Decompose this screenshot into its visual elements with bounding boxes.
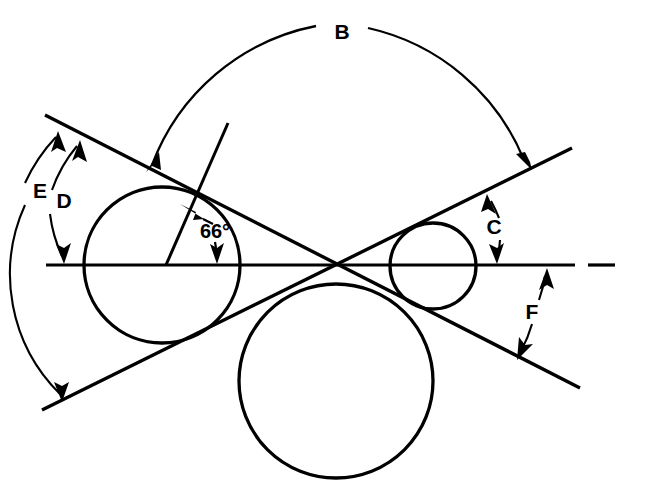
arc-c-label: C: [486, 215, 501, 238]
arc-d-bottom-arrowhead: [56, 243, 71, 264]
arc-d-upper-segment: [52, 146, 77, 190]
angle-leader-arrowhead-lower: [210, 243, 224, 264]
arc-b-right-segment: [368, 28, 524, 160]
dimension-arc-b: B: [146, 20, 532, 172]
angle-value-label: 66°: [200, 220, 230, 242]
arc-b-label: B: [334, 20, 349, 43]
angle-leader-lower: [215, 242, 216, 248]
bottom-circle: [239, 284, 433, 478]
arc-f-top-arrowhead: [539, 268, 554, 290]
arc-e-lower-segment: [10, 205, 60, 394]
technical-drawing: B E D C: [0, 0, 647, 500]
lower-left-to-upper-right-line: [42, 148, 572, 410]
arc-e-label: E: [33, 179, 47, 202]
arc-b-left-segment: [152, 26, 316, 165]
dimension-arc-f: F: [517, 268, 554, 360]
arc-c-bottom-arrowhead: [489, 243, 504, 264]
diagram-canvas: B E D C: [0, 0, 647, 500]
arc-f-label: F: [526, 300, 539, 323]
dimension-arc-d: D: [50, 140, 87, 264]
arc-e-upper-segment: [25, 137, 56, 183]
radial-angle-line: [166, 123, 228, 265]
arc-d-label: D: [56, 189, 71, 212]
dimension-arc-c: C: [481, 194, 504, 264]
